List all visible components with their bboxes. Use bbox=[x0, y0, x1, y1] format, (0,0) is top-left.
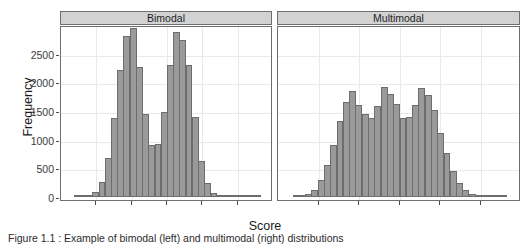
y-axis-tick-mark bbox=[56, 55, 59, 56]
y-axis-tick-label: 1500 bbox=[24, 107, 54, 118]
facet-strip-multimodal: Multimodal bbox=[277, 11, 520, 25]
x-axis-tick-mark bbox=[318, 201, 319, 205]
x-axis-title: Score bbox=[0, 219, 530, 233]
y-axis-tick-label: 2500 bbox=[24, 49, 54, 60]
y-axis-tick-mark bbox=[56, 198, 59, 199]
y-axis-tick-label: 0 bbox=[24, 193, 54, 204]
histogram-bar bbox=[254, 195, 261, 197]
x-axis-tick-mark bbox=[201, 201, 202, 205]
x-axis-tick-mark bbox=[166, 201, 167, 205]
x-axis-tick-mark bbox=[358, 201, 359, 205]
x-axis-tick-mark bbox=[480, 201, 481, 205]
x-axis-tick-mark bbox=[131, 201, 132, 205]
y-axis-tick-label: 1000 bbox=[24, 135, 54, 146]
y-axis-tick-mark bbox=[56, 112, 59, 113]
y-axis-tick-mark bbox=[56, 141, 59, 142]
figure-caption: Figure 1.1 : Example of bimodal (left) a… bbox=[8, 232, 524, 244]
histogram-bar bbox=[500, 195, 507, 197]
facet-strip-label: Bimodal bbox=[147, 13, 185, 24]
y-axis-tick-label: 500 bbox=[24, 164, 54, 175]
y-axis-tick-mark bbox=[56, 169, 59, 170]
x-axis-tick-mark bbox=[237, 201, 238, 205]
histogram-bars-bimodal bbox=[61, 27, 271, 200]
plot-area-bimodal bbox=[60, 26, 272, 201]
y-axis-tick-labels: 05001000150020002500 bbox=[24, 0, 54, 241]
x-axis-tick-mark bbox=[95, 201, 96, 205]
facet-strip-bimodal: Bimodal bbox=[60, 11, 272, 25]
y-axis-tick-label: 2000 bbox=[24, 78, 54, 89]
x-axis-tick-mark bbox=[439, 201, 440, 205]
y-axis-tick-mark bbox=[56, 83, 59, 84]
x-axis-tick-mark bbox=[399, 201, 400, 205]
facet-strip-label: Multimodal bbox=[373, 13, 424, 24]
plot-area-multimodal bbox=[277, 26, 520, 201]
histogram-bars-multimodal bbox=[278, 27, 519, 200]
